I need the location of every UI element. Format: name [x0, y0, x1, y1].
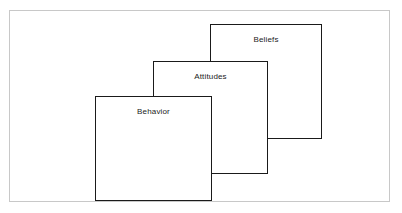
box-behavior-label: Behavior [96, 107, 211, 117]
box-attitudes-label: Attitudes [154, 72, 267, 82]
diagram-outer-frame: Beliefs Attitudes Behavior [9, 10, 390, 202]
box-behavior[interactable]: Behavior [95, 96, 212, 201]
diagram-canvas: Beliefs Attitudes Behavior [0, 0, 402, 213]
box-beliefs-label: Beliefs [211, 35, 321, 45]
